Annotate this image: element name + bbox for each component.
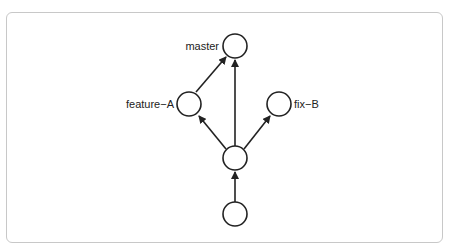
- label-feature-a: feature−A: [126, 98, 175, 110]
- label-master: master: [185, 40, 219, 52]
- node-commit-base: [223, 202, 247, 226]
- node-fix-b: [267, 92, 291, 116]
- edge-feature-a-to-master: [196, 57, 226, 92]
- edge-mid-to-feature-a: [199, 116, 226, 149]
- node-feature-a: [177, 92, 201, 116]
- node-commit-mid: [223, 146, 247, 170]
- label-fix-b: fix−B: [294, 98, 319, 110]
- edge-mid-to-fix-b: [244, 116, 270, 149]
- branch-graph: master feature−A fix−B: [0, 0, 452, 251]
- node-master: [223, 34, 247, 58]
